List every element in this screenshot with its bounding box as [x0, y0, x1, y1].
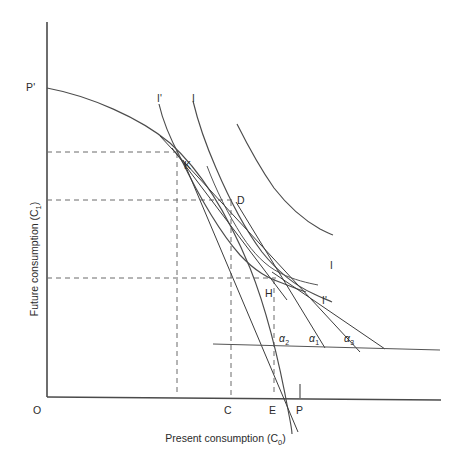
x-axis-title: Present consumption (C0): [0, 428, 451, 446]
y-axis-title-main: Future consumption (C: [28, 209, 40, 316]
label-point-H: H: [265, 288, 273, 299]
x-axis-title-close: ): [282, 432, 286, 444]
y-axis-title-subscript: 1: [34, 205, 43, 209]
indifference-curves-group: [159, 101, 333, 302]
axes-group: [47, 22, 441, 400]
label-curve-I-lower: I: [330, 261, 333, 271]
angle-baseline: [213, 344, 440, 350]
x-axis: [47, 397, 441, 400]
label-angle-alpha-3: α3: [344, 333, 354, 344]
label-curve-I-prime-lower: I': [322, 296, 327, 306]
label-P-prime: P': [26, 82, 35, 93]
alpha-3-subscript: 3: [350, 339, 354, 346]
x-axis-title-text: Present consumption (C0): [165, 432, 285, 444]
label-point-K: K: [184, 160, 191, 171]
y-axis-title: Future consumption (C1): [24, 179, 42, 339]
dashed-guides-group: [47, 152, 276, 396]
label-angle-alpha-1: α1: [309, 333, 319, 344]
figure-root: P' K D H I' I I I' α2 α1 α3 O C E P Futu…: [0, 0, 451, 450]
x-axis-title-subscript: 0: [278, 438, 282, 447]
tangent-lines-group: [160, 136, 385, 432]
label-tick-E: E: [269, 405, 276, 416]
angle-baseline-group: [213, 344, 440, 350]
indifference-curve-I-upper: [193, 101, 332, 302]
x-axis-title-main: Present consumption (C: [165, 432, 278, 444]
figure-canvas: [0, 0, 451, 450]
label-point-D: D: [237, 195, 245, 206]
label-tick-C: C: [224, 405, 232, 416]
indifference-curve-I-prime-upper: [159, 104, 306, 292]
label-curve-I-upper: I: [192, 94, 195, 104]
production-possibility-frontier: [47, 88, 292, 434]
label-angle-alpha-2: α2: [279, 333, 289, 344]
alpha-1-subscript: 1: [315, 339, 319, 346]
alpha-2-subscript: 2: [285, 339, 289, 346]
production-frontier-group: [47, 88, 292, 434]
label-curve-I-prime-upper: I': [157, 94, 162, 104]
label-tick-P: P: [296, 405, 303, 416]
y-axis-title-text: Future consumption (C1): [28, 202, 40, 316]
indifference-curve-I-outer: [237, 124, 333, 235]
label-origin: O: [33, 405, 41, 416]
